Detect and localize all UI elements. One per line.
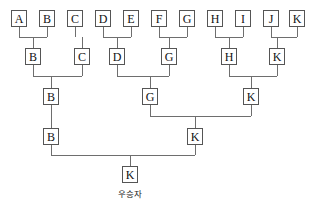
bracket-node-round-1-g-6: G [179,10,195,27]
winner-caption: 우승자 [90,190,170,199]
bracket-node-round-3-k-2: K [243,88,259,105]
bracket-node-round-1-j-9: J [263,10,279,27]
bracket-node-round-1-i-8: I [235,10,251,27]
bracket-node-round-3-g-1: G [142,88,158,105]
bracket-node-round-1-b-1: B [39,10,55,27]
bracket-node-round-1-f-5: F [151,10,167,27]
bracket-node-round-2-g-3: G [161,48,177,65]
bracket-node-final-k-0: K [122,166,138,183]
bracket-node-round-1-a-0: A [11,10,27,27]
bracket-node-round-2-k-5: K [269,48,285,65]
bracket-node-round-4-b-0: B [43,128,59,145]
bracket-node-round-2-h-4: H [221,48,237,65]
bracket-node-round-1-k-10: K [289,10,305,27]
bracket-node-round-1-c-2: C [67,10,83,27]
tournament-bracket-diagram: ABCDEFGHIJKBCDGHKBGKBKK 우승자 [0,0,317,218]
bracket-node-round-2-d-2: D [109,48,125,65]
bracket-node-round-3-b-0: B [43,88,59,105]
bracket-node-round-2-c-1: C [74,48,90,65]
bracket-node-round-2-b-0: B [25,48,41,65]
bracket-node-round-1-e-4: E [123,10,139,27]
bracket-node-round-1-d-3: D [95,10,111,27]
bracket-node-round-4-k-1: K [187,128,203,145]
bracket-node-round-1-h-7: H [207,10,223,27]
bracket-connector-lines [0,0,317,218]
